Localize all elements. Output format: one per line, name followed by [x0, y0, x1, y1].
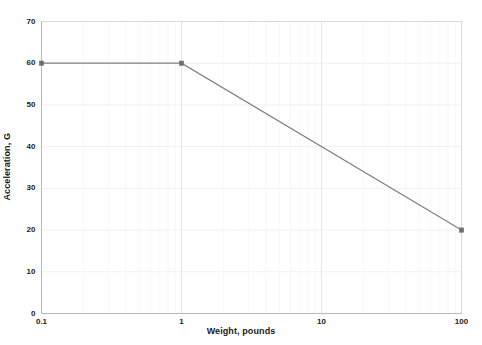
y-tick-label: 40: [14, 142, 36, 151]
vertical-gridlines: [42, 22, 462, 314]
x-tick-label: 10: [302, 317, 342, 326]
data-point-marker: [179, 61, 183, 65]
x-tick-label: 0.1: [22, 317, 62, 326]
x-tick-label: 1: [162, 317, 202, 326]
data-point-marker: [459, 228, 463, 232]
y-axis-title: Acceleration, G: [2, 133, 12, 201]
x-axis-title: Weight, pounds: [0, 326, 482, 336]
y-tick-label: 10: [14, 267, 36, 276]
y-tick-label: 60: [14, 58, 36, 67]
y-tick-label: 70: [14, 17, 36, 26]
y-tick-label: 50: [14, 100, 36, 109]
y-tick-label: 30: [14, 183, 36, 192]
minor-gridlines: [84, 22, 455, 314]
plot-area: [0, 0, 482, 345]
plot-frame: [42, 22, 462, 314]
horizontal-gridlines: [42, 22, 462, 272]
axis-spines: [42, 22, 462, 314]
y-tick-label: 20: [14, 225, 36, 234]
chart-container: Acceleration, G Weight, pounds 010203040…: [0, 0, 482, 345]
x-tick-label: 100: [442, 317, 482, 326]
data-point-marker: [39, 61, 43, 65]
